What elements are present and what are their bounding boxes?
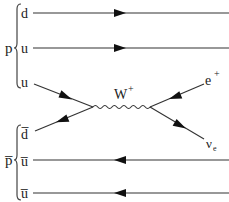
proton-group: p <box>5 4 21 88</box>
w-boson-label: W + <box>114 83 134 102</box>
positron-label: e + <box>205 68 220 88</box>
positron-charge: + <box>214 68 220 79</box>
neutrino-label: ν e <box>206 136 217 153</box>
antiproton-quark-ubar2-label: u̅ <box>20 186 28 201</box>
antiproton-brace <box>14 125 21 200</box>
positron-symbol: e <box>205 73 211 88</box>
neutrino-flavor: e <box>213 144 217 153</box>
w-boson-symbol: W <box>114 87 128 102</box>
arrow-icon <box>173 119 186 129</box>
arrow-icon <box>169 91 182 99</box>
antiproton-quark-dbar-label: d̅ <box>21 127 29 142</box>
proton-quark-u2-label: u <box>21 75 28 90</box>
arrow-icon <box>114 189 126 197</box>
antiproton-group: p̅ <box>5 125 21 200</box>
arrow-icon <box>59 90 73 99</box>
w-boson-propagator <box>93 106 150 109</box>
neutrino-symbol: ν <box>206 136 212 151</box>
antiproton-label: p̅ <box>5 152 13 168</box>
w-boson-charge: + <box>128 83 134 94</box>
antiproton-quark-ubar1-label: u̅ <box>20 154 28 169</box>
arrow-icon <box>114 9 126 17</box>
arrow-icon <box>56 114 69 122</box>
proton-quark-u1-label: u <box>21 41 28 56</box>
feynman-diagram: p d u u W + e + ν e p̅ d̅ u̅ u̅ <box>0 0 229 202</box>
proton-brace <box>14 4 21 88</box>
arrow-icon <box>114 44 126 52</box>
proton-quark-d-label: d <box>21 6 28 21</box>
arrow-icon <box>114 156 126 164</box>
proton-label: p <box>5 40 13 56</box>
